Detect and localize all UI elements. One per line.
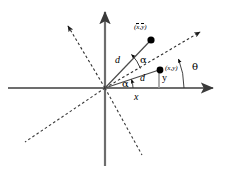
d-upper-label: d — [115, 55, 120, 65]
rotated-y-axis-positive — [68, 26, 105, 88]
point-xy-label: (x,y) — [165, 65, 178, 72]
diagram-canvas — [0, 0, 225, 172]
point-mean-label: (x,y) — [134, 24, 147, 31]
geometry-figure: (x,y) (x,y) d α d α θ x y — [0, 0, 225, 172]
cartesian-axes — [8, 12, 213, 166]
rotated-x-axis-negative — [25, 88, 105, 142]
paren-close-mean: ) — [144, 23, 146, 31]
alpha-lower-label: α — [122, 79, 129, 89]
theta-label: θ — [192, 62, 198, 72]
mean-x-label: x — [136, 24, 139, 31]
alpha-lower-arc — [132, 80, 134, 89]
x-projection-label: x — [134, 92, 138, 102]
alpha-upper-label: α — [140, 55, 147, 65]
rotated-axes — [25, 26, 200, 155]
mean-y-label: y — [141, 24, 144, 31]
point-mean-marker — [147, 36, 154, 43]
theta-arc — [179, 59, 185, 88]
d-lower-label: d — [140, 73, 145, 83]
y-projection-label: y — [162, 73, 167, 83]
